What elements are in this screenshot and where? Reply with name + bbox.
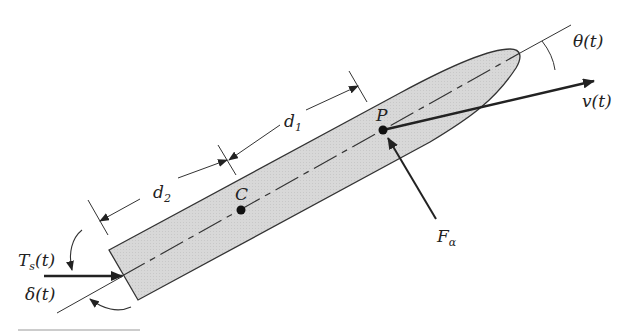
dimension-tick-stern bbox=[88, 200, 108, 235]
d2-dimension-line-upper bbox=[178, 160, 227, 178]
ts-angle-curved-arrow bbox=[70, 230, 82, 270]
point-c-dot bbox=[237, 206, 246, 215]
velocity-label: v(t) bbox=[582, 91, 612, 111]
diagram-canvas: θ(t) v(t) d1 d2 P C Fα Ts(t) δ(t) bbox=[0, 0, 626, 333]
delta-reference-line bbox=[57, 276, 123, 313]
d2-label: d2 bbox=[153, 182, 171, 205]
thrust-ts-label: Ts(t) bbox=[18, 250, 55, 273]
d1-label: d1 bbox=[284, 111, 302, 134]
body-diagram-svg: θ(t) v(t) d1 d2 P C Fα Ts(t) δ(t) bbox=[0, 0, 626, 333]
force-f-alpha-label: Fα bbox=[436, 226, 457, 249]
body-axis-centerline bbox=[122, 53, 520, 276]
d1-dimension-line-lower bbox=[229, 125, 280, 160]
vessel-body bbox=[109, 49, 520, 300]
delta-angle-curved-arrow bbox=[90, 299, 131, 310]
delta-label: δ(t) bbox=[25, 284, 55, 304]
point-p-label: P bbox=[375, 105, 388, 125]
d2-dimension-line-lower bbox=[100, 199, 140, 221]
point-c-label: C bbox=[235, 184, 248, 204]
axis-extension-line bbox=[520, 25, 571, 53]
point-p-dot bbox=[379, 126, 388, 135]
theta-label: θ(t) bbox=[573, 31, 603, 51]
theta-angle-arc bbox=[542, 41, 555, 70]
d1-dimension-line-upper bbox=[306, 86, 358, 110]
